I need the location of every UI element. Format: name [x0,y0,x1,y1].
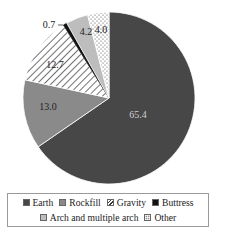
legend-row-2: Arch and multiple arch Other [8,210,208,225]
legend-label-rockfill: Rockfill [69,197,100,208]
pie-chart: 65.4 13.0 12.7 0.7 4.2 4.0 [0,0,225,192]
label-other: 4.0 [95,24,108,35]
legend-label-gravity: Gravity [117,197,146,208]
legend-label-other: Other [154,212,176,223]
swatch-other-icon [144,214,151,221]
swatch-rockfill-icon [59,199,66,206]
label-gravity: 12.7 [46,59,64,70]
swatch-arch-icon [40,214,47,221]
label-earth: 65.4 [129,109,147,120]
legend-item-other: Other [144,212,176,223]
chart-legend: Earth Rockfill Gravity Buttress Arch and… [7,193,209,227]
swatch-buttress-icon [152,199,159,206]
legend-item-buttress: Buttress [152,197,193,208]
label-buttress: 0.7 [43,19,56,30]
legend-item-rockfill: Rockfill [59,197,100,208]
swatch-gravity-icon [107,199,114,206]
label-rockfill: 13.0 [39,101,57,112]
legend-row-1: Earth Rockfill Gravity Buttress [8,195,208,210]
legend-item-gravity: Gravity [107,197,146,208]
legend-label-earth: Earth [33,197,54,208]
legend-item-earth: Earth [23,197,54,208]
swatch-earth-icon [23,199,30,206]
legend-label-arch: Arch and multiple arch [50,212,139,223]
legend-label-buttress: Buttress [162,197,193,208]
label-arch: 4.2 [80,26,93,37]
legend-item-arch: Arch and multiple arch [40,212,139,223]
